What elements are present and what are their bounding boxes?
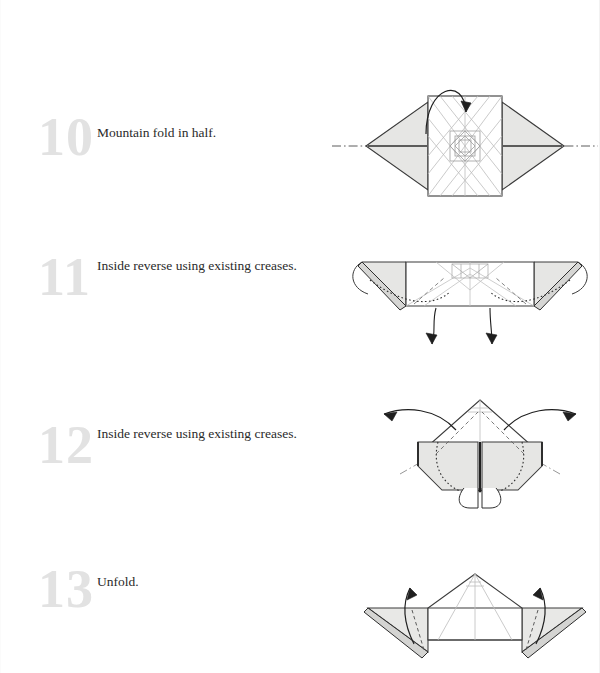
diagram-step-13 <box>350 548 600 668</box>
step-10-svg <box>330 78 600 203</box>
step-11-svg <box>340 248 600 358</box>
step-caption-10: Mountain fold in half. <box>97 124 216 141</box>
step-13-svg <box>350 548 600 668</box>
right-bottom-curl <box>482 488 501 508</box>
page-edge-left <box>0 0 1 673</box>
step-number-12: 12 <box>38 418 94 472</box>
left-bottom-curl <box>459 488 478 508</box>
diagram-step-12 <box>360 392 600 517</box>
step-caption-13: Unfold. <box>97 573 139 590</box>
step-caption-11: Inside reverse using existing creases. <box>97 257 297 274</box>
diagram-step-11 <box>340 248 600 358</box>
step-number-10: 10 <box>38 110 94 164</box>
step-number-13: 13 <box>38 562 94 616</box>
step-caption-12: Inside reverse using existing creases. <box>97 425 297 442</box>
diagram-step-10 <box>330 78 600 203</box>
right-down-arrowhead-icon <box>486 333 497 344</box>
instruction-page: 10 Mountain fold in half. <box>0 0 600 673</box>
step-12-svg <box>360 392 600 517</box>
left-down-arrowhead-icon <box>426 333 437 344</box>
step-number-11: 11 <box>38 250 91 304</box>
